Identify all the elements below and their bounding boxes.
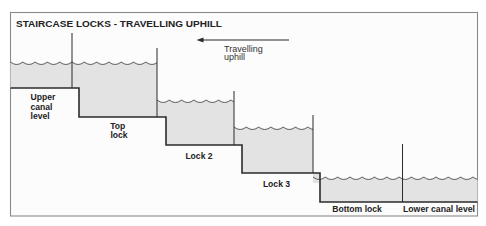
- water-body: [157, 106, 234, 146]
- label-lock-2: Lock 2: [185, 151, 212, 161]
- staircase-locks-diagram: STAIRCASE LOCKS - TRAVELLING UPHILL Trav…: [0, 0, 486, 226]
- label-top-lock: Top lock: [110, 121, 128, 141]
- water-surface-wave: [157, 99, 234, 106]
- label-line: canal: [31, 102, 53, 112]
- label-lower-canal-level: Lower canal level: [403, 204, 475, 214]
- label-line: Lock 3: [263, 179, 290, 189]
- label-line: Upper: [31, 92, 56, 102]
- label-line: Top: [110, 121, 125, 131]
- water-lock-2: [157, 99, 234, 145]
- label-line: lock: [110, 130, 127, 140]
- water-surface-wave: [313, 176, 478, 183]
- label-lock-3: Lock 3: [263, 179, 290, 189]
- water-bottom-lock-and-lower-canal: [313, 173, 478, 202]
- label-line: Bottom lock: [332, 204, 382, 214]
- label-line: Lock 2: [185, 151, 212, 161]
- water-surface-wave: [11, 61, 158, 68]
- water-body: [234, 133, 313, 174]
- label-bottom-lock: Bottom lock: [332, 204, 382, 214]
- water-surface-wave: [234, 126, 313, 133]
- label-line: level: [31, 111, 50, 121]
- diagram-title: STAIRCASE LOCKS - TRAVELLING UPHILL: [16, 18, 222, 29]
- water-lock-3: [234, 126, 313, 173]
- direction-label-line2: uphill: [224, 52, 245, 62]
